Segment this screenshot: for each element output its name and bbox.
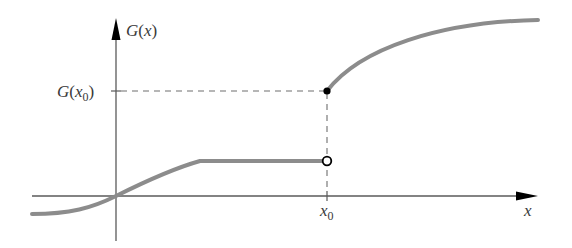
y-axis-label: G(x) bbox=[126, 21, 157, 40]
y-axis-arrow-icon bbox=[112, 18, 121, 40]
y-tick-label: G(x0) bbox=[57, 82, 94, 104]
x-axis-label: x bbox=[523, 201, 532, 220]
curve-left-segment bbox=[32, 161, 322, 214]
filled-point-icon bbox=[323, 87, 330, 94]
x-axis-arrow-icon bbox=[516, 192, 538, 201]
x-tick-label: x0 bbox=[319, 201, 334, 223]
function-graph-figure: G(x) G(x0) x0 x bbox=[0, 0, 572, 248]
curve-right-segment bbox=[327, 20, 538, 91]
graph-canvas: G(x) G(x0) x0 x bbox=[0, 0, 572, 248]
open-point-icon bbox=[323, 157, 332, 166]
